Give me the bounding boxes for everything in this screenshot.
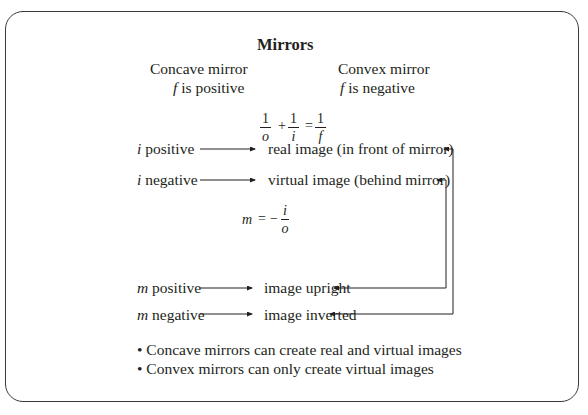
arrow-connectors [0,0,588,415]
connector-real-inverted [330,149,453,314]
connector-virtual-upright [334,180,446,288]
